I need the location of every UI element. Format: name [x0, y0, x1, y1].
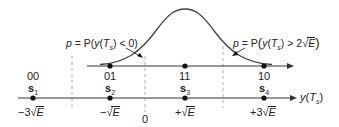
- symbol-value-s3: +√E: [175, 106, 195, 118]
- left-annotation-arrowhead: [137, 53, 143, 58]
- top-point-10: [261, 63, 266, 68]
- zero-label: 0: [142, 114, 148, 125]
- top-bits-11: 11: [179, 71, 190, 82]
- prob-eq: = P: [239, 37, 258, 49]
- prob-y: y: [94, 37, 99, 49]
- symbol-bits-s1: 00: [27, 71, 39, 82]
- top-axis-arrow: [287, 63, 294, 69]
- symbol-value-s4: +3√E: [250, 106, 276, 118]
- symbol-value-s1: −3√E: [18, 106, 44, 118]
- top-bits-10: 10: [258, 71, 270, 82]
- bottom-axis-arrow: [290, 95, 297, 101]
- prob-cond: ) > 2: [281, 37, 302, 49]
- top-point-01: [107, 63, 112, 68]
- symbol-name-s4: s4: [259, 83, 269, 98]
- constellation-diagram: p = P(y(Ts) < 0) p = P(y(Ts) > 2√E) 01 1…: [0, 0, 339, 127]
- prob-y: y: [262, 37, 267, 49]
- symbol-name-s2: s2: [105, 83, 115, 98]
- prob-eq: = P(: [72, 37, 94, 49]
- diagram-graphics: [0, 0, 339, 127]
- prob-cond: ) < 0): [113, 37, 138, 49]
- symbol-value-s2: −√E: [100, 106, 120, 118]
- axis-label-y-Ts: y(Ts): [300, 92, 323, 107]
- symbol-name-s3: s3: [180, 83, 190, 98]
- right-probability-label: p = P(y(Ts) > 2√E): [233, 37, 320, 53]
- top-bits-01: 01: [104, 71, 116, 82]
- top-point-11: [182, 63, 187, 68]
- left-probability-label: p = P(y(Ts) < 0): [66, 38, 138, 53]
- symbol-name-s1: s1: [28, 83, 38, 98]
